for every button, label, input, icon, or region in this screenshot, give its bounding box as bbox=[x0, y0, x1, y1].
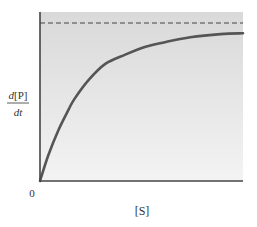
chart: 0 [S] d[P] dt bbox=[0, 0, 257, 227]
svg-text:d[P]: d[P] bbox=[9, 89, 28, 101]
plot-background bbox=[40, 12, 243, 181]
y-axis-label: d[P] dt bbox=[7, 89, 29, 118]
y-label-numerator-p: [P] bbox=[14, 89, 27, 101]
x-axis-label: [S] bbox=[135, 204, 150, 218]
origin-label: 0 bbox=[29, 187, 35, 199]
y-label-denominator: dt bbox=[14, 106, 24, 118]
